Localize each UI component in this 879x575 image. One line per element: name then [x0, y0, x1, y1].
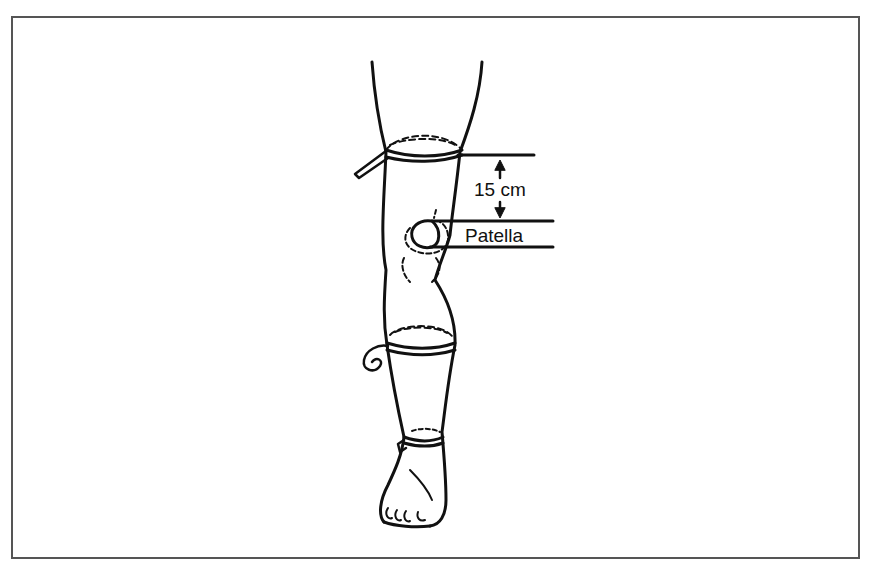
- leg-diagram: 15 cm Patella: [0, 0, 879, 575]
- thigh-tape-end: [355, 151, 388, 178]
- thigh-tape-band: [386, 150, 462, 156]
- leg-outline-left: [372, 62, 404, 522]
- calf-tape-band: [387, 343, 455, 348]
- leg-outline-right: [430, 62, 482, 526]
- calf-tape-end: [364, 346, 388, 371]
- patella-outline: [412, 221, 439, 248]
- distance-label: 15 cm: [474, 179, 526, 200]
- foot-toes: [384, 522, 430, 527]
- ankle-tape-band: [404, 437, 443, 441]
- patella-label: Patella: [465, 225, 524, 246]
